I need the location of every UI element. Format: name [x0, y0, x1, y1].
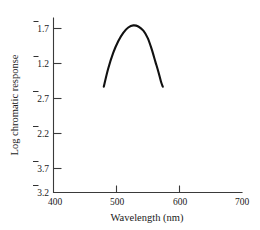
y-tick-label-text: 2.7: [37, 94, 49, 104]
y-tick-label-text: 2.2: [37, 129, 49, 139]
axis-frame: [54, 18, 243, 193]
x-tick-label-text: 500: [110, 197, 125, 207]
chart-canvas: 1.7 1.2 2.7 2.2 3.7 3.2: [0, 0, 260, 230]
y-axis-title: Log chromatic response: [9, 54, 20, 155]
x-axis-title: Wavelength (nm): [111, 212, 184, 224]
y-tick-label-4: 3.7: [33, 162, 49, 175]
chart-figure: 1.7 1.2 2.7 2.2 3.7 3.2: [0, 0, 260, 230]
axes-group: [54, 18, 243, 193]
x-tick-label-text: 400: [48, 197, 63, 207]
y-tick-label-text: 1.7: [37, 24, 49, 34]
x-tick-label-text: 700: [235, 197, 250, 207]
y-tick-label-3: 2.2: [33, 127, 49, 140]
y-axis-ticks: [54, 29, 62, 169]
y-tick-label-2: 2.7: [33, 92, 49, 105]
y-tick-label-5: 3.2: [33, 186, 49, 199]
chromatic-response-curve: [104, 25, 163, 86]
y-tick-label-1: 1.2: [34, 57, 50, 70]
y-tick-label-text: 3.7: [37, 164, 49, 174]
y-tick-labels: 1.7 1.2 2.7 2.2 3.7 3.2: [33, 22, 49, 199]
x-tick-labels: 400 500 600 700: [48, 197, 250, 207]
y-tick-label-0: 1.7: [34, 22, 50, 35]
x-axis-ticks: [117, 186, 180, 193]
x-tick-label-text: 600: [173, 197, 188, 207]
y-tick-label-text: 1.2: [37, 59, 49, 69]
